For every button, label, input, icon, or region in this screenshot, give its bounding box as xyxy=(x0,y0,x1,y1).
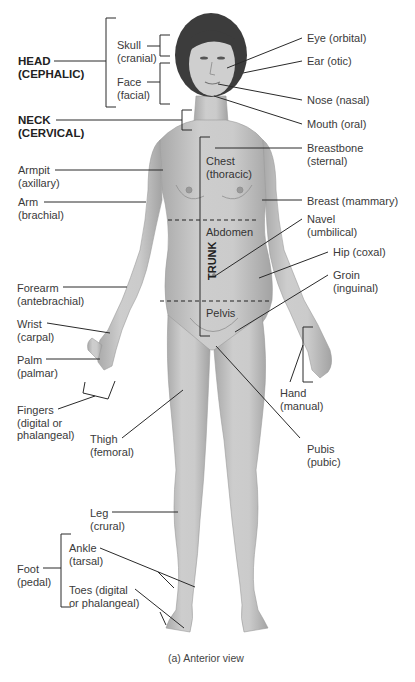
label-head: HEAD (CEPHALIC) xyxy=(18,55,84,80)
label-foot: Foot (pedal) xyxy=(17,563,51,588)
label-neck: NECK (CERVICAL) xyxy=(18,114,84,139)
label-arm: Arm (brachial) xyxy=(18,196,64,221)
label-wrist: Wrist (carpal) xyxy=(17,318,54,343)
label-groin: Groin (inguinal) xyxy=(333,269,378,294)
label-pelvis: Pelvis xyxy=(206,307,235,320)
label-face: Face (facial) xyxy=(117,76,150,101)
label-leg: Leg (crural) xyxy=(90,507,125,532)
label-ear: Ear (otic) xyxy=(307,55,352,68)
label-ankle: Ankle (tarsal) xyxy=(69,542,103,567)
label-eye: Eye (orbital) xyxy=(307,32,366,45)
label-forearm: Forearm (antebrachial) xyxy=(17,282,84,307)
anatomy-diagram: HEAD (CEPHALIC) NECK (CERVICAL) TRUNK Sk… xyxy=(0,0,415,682)
label-toes: Toes (digital or phalangeal) xyxy=(69,584,139,609)
label-abdomen: Abdomen xyxy=(206,226,253,239)
label-breast: Breast (mammary) xyxy=(307,195,398,208)
label-armpit: Armpit (axillary) xyxy=(18,164,60,189)
label-navel: Navel (umbilical) xyxy=(307,213,357,238)
label-nose: Nose (nasal) xyxy=(307,94,369,107)
figure-caption: (a) Anterior view xyxy=(168,652,244,664)
label-hip: Hip (coxal) xyxy=(333,246,386,259)
label-pubis: Pubis (pubic) xyxy=(307,443,341,468)
label-fingers: Fingers (digital or phalangeal) xyxy=(17,404,75,442)
label-thigh: Thigh (femoral) xyxy=(90,433,134,458)
label-trunk: TRUNK xyxy=(206,242,218,281)
label-chest: Chest (thoracic) xyxy=(206,155,252,180)
label-hand: Hand (manual) xyxy=(280,387,323,412)
label-breastbone: Breastbone (sternal) xyxy=(307,142,363,167)
label-mouth: Mouth (oral) xyxy=(307,118,366,131)
head-figure xyxy=(175,13,247,97)
label-palm: Palm (palmar) xyxy=(17,354,58,379)
label-skull: Skull (cranial) xyxy=(117,39,157,64)
